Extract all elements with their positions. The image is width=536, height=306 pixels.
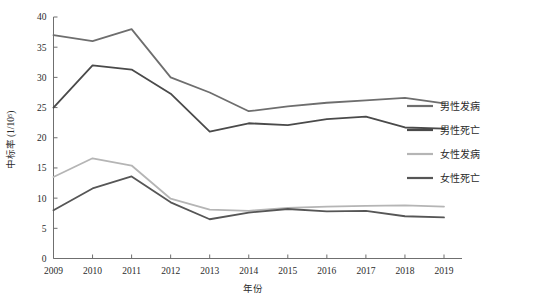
y-tick-label: 5 [42,224,47,234]
x-tick-label: 2009 [44,266,63,276]
chart-legend: 男性发病男性死亡女性发病女性死亡 [407,100,480,184]
x-tick-label: 2015 [278,266,297,276]
x-tick-label: 2011 [122,266,141,276]
legend-label: 男性发病 [440,100,480,112]
y-axis-title: 中标率 (1/10⁵) [5,111,17,170]
y-tick-label: 20 [37,133,47,143]
data-series-group [54,29,445,219]
y-tick-label: 10 [37,194,47,204]
legend-label: 男性死亡 [440,124,480,136]
legend-label: 女性发病 [440,148,480,160]
series-line [54,158,445,211]
x-tick-label: 2017 [356,266,375,276]
chart-figure: 0510152025303540 20092010201120122013201… [0,0,536,306]
x-tick-label: 2016 [317,266,336,276]
y-tick-label: 0 [42,254,47,264]
x-tick-label: 2019 [435,266,454,276]
y-tick-label: 40 [37,12,47,22]
y-tick-label: 35 [37,43,47,53]
x-tick-label: 2012 [161,266,180,276]
y-axis-ticks: 0510152025303540 [37,12,58,264]
x-axis-title: 年份 [243,283,263,294]
axis-lines [54,17,463,259]
y-tick-label: 25 [37,103,47,113]
y-tick-label: 15 [37,163,47,173]
series-line [54,176,445,219]
line-chart-canvas: 0510152025303540 20092010201120122013201… [0,0,536,306]
y-tick-label: 30 [37,73,47,83]
x-tick-label: 2010 [83,266,102,276]
x-tick-label: 2014 [239,266,258,276]
legend-label: 女性死亡 [440,172,480,184]
x-tick-label: 2013 [200,266,219,276]
series-line [54,29,445,111]
x-axis-ticks: 2009201020112012201320142015201620172018… [44,255,454,276]
x-tick-label: 2018 [395,266,414,276]
